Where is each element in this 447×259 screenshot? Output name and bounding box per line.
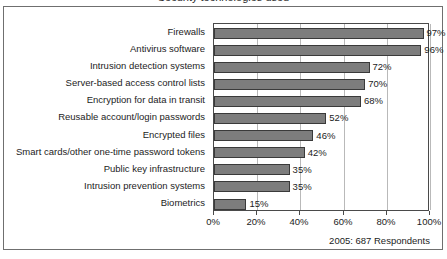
- x-tick-mark: [343, 211, 344, 215]
- figure-frame: FirewallsAntivirus softwareIntrusion det…: [3, 6, 443, 250]
- bar: [214, 45, 421, 56]
- bar-series: 97%96%72%70%68%52%46%42%35%35%15%: [214, 24, 428, 210]
- category-label: Reusable account/login passwords: [4, 108, 209, 125]
- bar: [214, 199, 246, 210]
- bar-value-label: 97%: [427, 26, 446, 39]
- bar-row: 68%: [214, 92, 428, 109]
- x-tick-label: 60%: [333, 216, 352, 227]
- bar-value-label: 46%: [316, 129, 335, 142]
- chart-figure: Security technologies used FirewallsAnti…: [0, 0, 447, 259]
- bar: [214, 62, 370, 73]
- bar-value-label: 70%: [368, 77, 387, 90]
- category-label: Smart cards/other one-time password toke…: [4, 143, 209, 160]
- bar: [214, 113, 326, 124]
- bar-row: 15%: [214, 195, 428, 212]
- bar: [214, 96, 361, 107]
- x-axis: 0%20%40%60%80%100%: [213, 211, 429, 231]
- x-tick-mark: [213, 211, 214, 215]
- x-tick-mark: [256, 211, 257, 215]
- category-label: Public key infrastructure: [4, 160, 209, 177]
- x-tick-label: 0%: [206, 216, 220, 227]
- bar: [214, 28, 424, 39]
- bar-row: 72%: [214, 58, 428, 75]
- footnote: 2005: 687 Respondents: [329, 235, 430, 246]
- bar-row: 42%: [214, 144, 428, 161]
- bar: [214, 147, 305, 158]
- bar-value-label: 15%: [249, 197, 268, 210]
- category-axis-labels: FirewallsAntivirus softwareIntrusion det…: [4, 23, 209, 211]
- bar-value-label: 42%: [308, 146, 327, 159]
- category-label: Encrypted files: [4, 126, 209, 143]
- plot-area: 97%96%72%70%68%52%46%42%35%35%15%: [213, 23, 429, 211]
- bar-row: 97%: [214, 24, 428, 41]
- bar-row: 70%: [214, 75, 428, 92]
- x-tick-mark: [386, 211, 387, 215]
- bar-value-label: 35%: [293, 163, 312, 176]
- clipped-title: Security technologies used: [0, 0, 447, 5]
- x-tick-mark: [299, 211, 300, 215]
- bar-value-label: 68%: [364, 94, 383, 107]
- bar: [214, 181, 290, 192]
- bar-row: 35%: [214, 178, 428, 195]
- category-label: Server-based access control lists: [4, 74, 209, 91]
- x-tick-mark: [429, 211, 430, 215]
- bar-row: 96%: [214, 41, 428, 58]
- x-tick-label: 80%: [376, 216, 395, 227]
- category-label: Intrusion prevention systems: [4, 177, 209, 194]
- bar-value-label: 72%: [373, 60, 392, 73]
- category-label: Firewalls: [4, 23, 209, 40]
- bar-value-label: 96%: [424, 43, 443, 56]
- clipped-title-text: Security technologies used: [0, 0, 447, 3]
- category-label: Antivirus software: [4, 40, 209, 57]
- bar-value-label: 52%: [329, 111, 348, 124]
- bar-row: 46%: [214, 127, 428, 144]
- bar-value-label: 35%: [293, 180, 312, 193]
- bar-row: 35%: [214, 161, 428, 178]
- x-tick-label: 20%: [246, 216, 265, 227]
- bar: [214, 130, 313, 141]
- bar: [214, 164, 290, 175]
- category-label: Biometrics: [4, 194, 209, 211]
- category-label: Encryption for data in transit: [4, 91, 209, 108]
- category-label: Intrusion detection systems: [4, 57, 209, 74]
- x-tick-label: 100%: [417, 216, 441, 227]
- x-tick-label: 40%: [289, 216, 308, 227]
- bar: [214, 79, 365, 90]
- bar-row: 52%: [214, 109, 428, 126]
